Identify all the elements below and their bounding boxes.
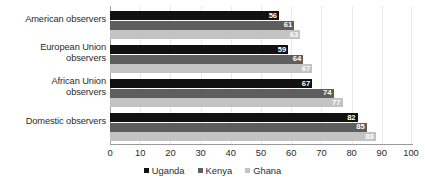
legend-label-ghana: Ghana	[253, 166, 281, 175]
bar-value-african-union-uganda: 67	[302, 80, 310, 88]
bar-african-union-kenya[interactable]: 74	[110, 89, 334, 98]
xtick-30: 30	[195, 147, 205, 158]
bar-european-union-kenya[interactable]: 64	[110, 55, 303, 64]
category-label-american: American observers	[0, 14, 106, 25]
xtick-60: 60	[286, 147, 296, 158]
category-label-european-union: European Union observers	[0, 42, 106, 63]
chart-legend: Uganda Kenya Ghana	[0, 166, 425, 175]
legend-swatch-icon-uganda	[144, 168, 149, 173]
category-label-domestic: Domestic observers	[0, 116, 106, 127]
bar-domestic-uganda[interactable]: 82	[110, 113, 358, 122]
plot-area: 56 61 63 59 64 67 67	[110, 6, 412, 144]
bar-american-uganda[interactable]: 56	[110, 11, 279, 20]
bar-african-union-uganda[interactable]: 67	[110, 79, 312, 88]
xtick-50: 50	[256, 147, 266, 158]
bar-chart: American observers European Union observ…	[0, 0, 425, 190]
bar-value-european-union-uganda: 59	[278, 46, 286, 54]
bar-european-union-uganda[interactable]: 59	[110, 45, 288, 54]
xtick-80: 80	[346, 147, 356, 158]
bar-group-american: 56 61 63	[110, 11, 412, 40]
bar-value-european-union-ghana: 67	[302, 65, 310, 73]
bar-value-domestic-ghana: 88	[365, 133, 373, 141]
bar-american-kenya[interactable]: 61	[110, 21, 294, 30]
bar-domestic-ghana[interactable]: 88	[110, 132, 376, 141]
legend-label-kenya: Kenya	[206, 166, 233, 175]
xtick-10: 10	[135, 147, 145, 158]
bar-group-domestic: 82 85 88	[110, 113, 412, 142]
xtick-70: 70	[316, 147, 326, 158]
bar-value-african-union-kenya: 74	[323, 89, 331, 97]
category-label-african-union-line1: African Union	[0, 76, 106, 87]
category-label-african-union-line2: observers	[0, 87, 106, 98]
xtick-100: 100	[403, 147, 419, 158]
category-label-european-union-line2: observers	[0, 53, 106, 64]
legend-swatch-icon-ghana	[245, 168, 250, 173]
xtick-0: 0	[107, 147, 112, 158]
bar-value-american-ghana: 63	[290, 31, 298, 39]
bar-group-african-union: 67 74 77	[110, 79, 412, 108]
bar-value-american-kenya: 61	[284, 21, 292, 29]
bar-european-union-ghana[interactable]: 67	[110, 64, 312, 73]
value-axis-line	[110, 144, 413, 145]
category-label-american-line1: American observers	[25, 14, 106, 24]
category-label-african-union: African Union observers	[0, 76, 106, 97]
cropped-title-strip	[0, 0, 425, 3]
xtick-20: 20	[165, 147, 175, 158]
bar-value-african-union-ghana: 77	[332, 99, 340, 107]
bar-american-ghana[interactable]: 63	[110, 30, 300, 39]
bar-value-domestic-uganda: 82	[347, 114, 355, 122]
legend-label-uganda: Uganda	[152, 166, 185, 175]
bar-domestic-kenya[interactable]: 85	[110, 123, 367, 132]
legend-item-ghana[interactable]: Ghana	[245, 166, 281, 175]
legend-swatch-icon-kenya	[198, 168, 203, 173]
legend-item-uganda[interactable]: Uganda	[144, 166, 185, 175]
bar-value-domestic-kenya: 85	[356, 123, 364, 131]
value-axis-tick-labels: 0 10 20 30 40 50 60 70 80 90 100	[110, 147, 412, 161]
bar-value-american-uganda: 56	[269, 12, 277, 20]
bar-african-union-ghana[interactable]: 77	[110, 98, 343, 107]
category-label-domestic-line1: Domestic observers	[26, 116, 106, 126]
xtick-90: 90	[377, 147, 387, 158]
category-axis-labels: American observers European Union observ…	[0, 6, 106, 144]
legend-item-kenya[interactable]: Kenya	[198, 166, 233, 175]
bar-group-european-union: 59 64 67	[110, 45, 412, 74]
xtick-40: 40	[226, 147, 236, 158]
bar-value-european-union-kenya: 64	[293, 55, 301, 63]
category-label-european-union-line1: European Union	[0, 42, 106, 53]
